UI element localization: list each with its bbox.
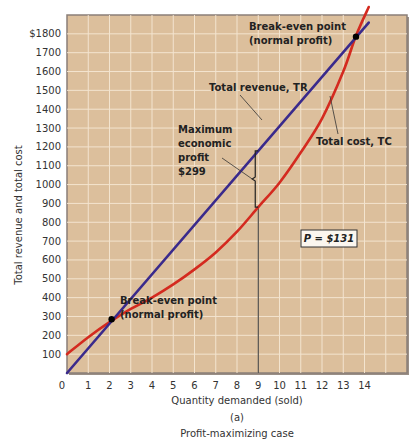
x-tick-label: 7 bbox=[213, 380, 219, 391]
x-tick-label: 0 bbox=[59, 380, 65, 391]
y-tick-label: 100 bbox=[42, 349, 61, 360]
y-tick-label: 1300 bbox=[36, 123, 61, 134]
break-even-point-high bbox=[353, 33, 359, 39]
x-axis-title: Quantity demanded (sold) bbox=[171, 395, 302, 406]
y-tick-label: 1100 bbox=[36, 160, 61, 171]
x-tick-label: 5 bbox=[170, 380, 176, 391]
break-even-high-label-2: (normal profit) bbox=[249, 35, 332, 46]
x-axis-ticks: 01234567891011121314 bbox=[59, 380, 371, 391]
y-tick-label: 500 bbox=[42, 273, 61, 284]
tr-label: Total revenue, TR bbox=[209, 82, 308, 93]
x-tick-label: 6 bbox=[191, 380, 197, 391]
x-tick-label: 8 bbox=[234, 380, 240, 391]
max-profit-label-4: $299 bbox=[178, 166, 206, 177]
x-tick-label: 10 bbox=[273, 380, 286, 391]
chart-title: Profit-maximizing case bbox=[180, 428, 294, 439]
y-tick-label: 800 bbox=[42, 217, 61, 228]
x-tick-label: 3 bbox=[128, 380, 134, 391]
break-even-high-label-1: Break-even point bbox=[249, 21, 346, 32]
y-tick-label: 900 bbox=[42, 198, 61, 209]
x-tick-label: 2 bbox=[106, 380, 112, 391]
break-even-point-low bbox=[108, 316, 114, 322]
break-even-low-label-1: Break-even point bbox=[120, 295, 217, 306]
x-tick-label: 12 bbox=[316, 380, 329, 391]
max-profit-label-3: profit bbox=[178, 152, 209, 163]
max-profit-label-1: Maximum bbox=[178, 124, 233, 135]
y-axis-title: Total revenue and total cost bbox=[13, 145, 24, 286]
y-tick-label: 1200 bbox=[36, 141, 61, 152]
y-axis-ticks: 1002003004005006007008009001000110012001… bbox=[29, 28, 61, 359]
y-tick-label: 200 bbox=[42, 330, 61, 341]
break-even-low-label-2: (normal profit) bbox=[120, 309, 203, 320]
x-tick-label: 11 bbox=[294, 380, 307, 391]
x-tick-label: 4 bbox=[149, 380, 155, 391]
x-tick-label: 13 bbox=[337, 380, 350, 391]
price-label: P = $131 bbox=[304, 233, 355, 244]
y-tick-label: 700 bbox=[42, 236, 61, 247]
y-tick-label: 400 bbox=[42, 292, 61, 303]
y-tick-label: 600 bbox=[42, 254, 61, 265]
y-tick-label: 1400 bbox=[36, 104, 61, 115]
x-tick-label: 1 bbox=[85, 380, 91, 391]
y-tick-label: $1800 bbox=[29, 28, 61, 39]
y-tick-label: 1700 bbox=[36, 47, 61, 58]
x-tick-label: 9 bbox=[255, 380, 261, 391]
profit-chart: 1002003004005006007008009001000110012001… bbox=[0, 0, 417, 442]
y-tick-label: 300 bbox=[42, 311, 61, 322]
panel-label: (a) bbox=[230, 412, 244, 423]
x-tick-label: 14 bbox=[358, 380, 371, 391]
y-tick-label: 1000 bbox=[36, 179, 61, 190]
y-tick-label: 1600 bbox=[36, 66, 61, 77]
y-tick-label: 1500 bbox=[36, 85, 61, 96]
max-profit-label-2: economic bbox=[178, 138, 231, 149]
tc-label: Total cost, TC bbox=[316, 136, 392, 147]
